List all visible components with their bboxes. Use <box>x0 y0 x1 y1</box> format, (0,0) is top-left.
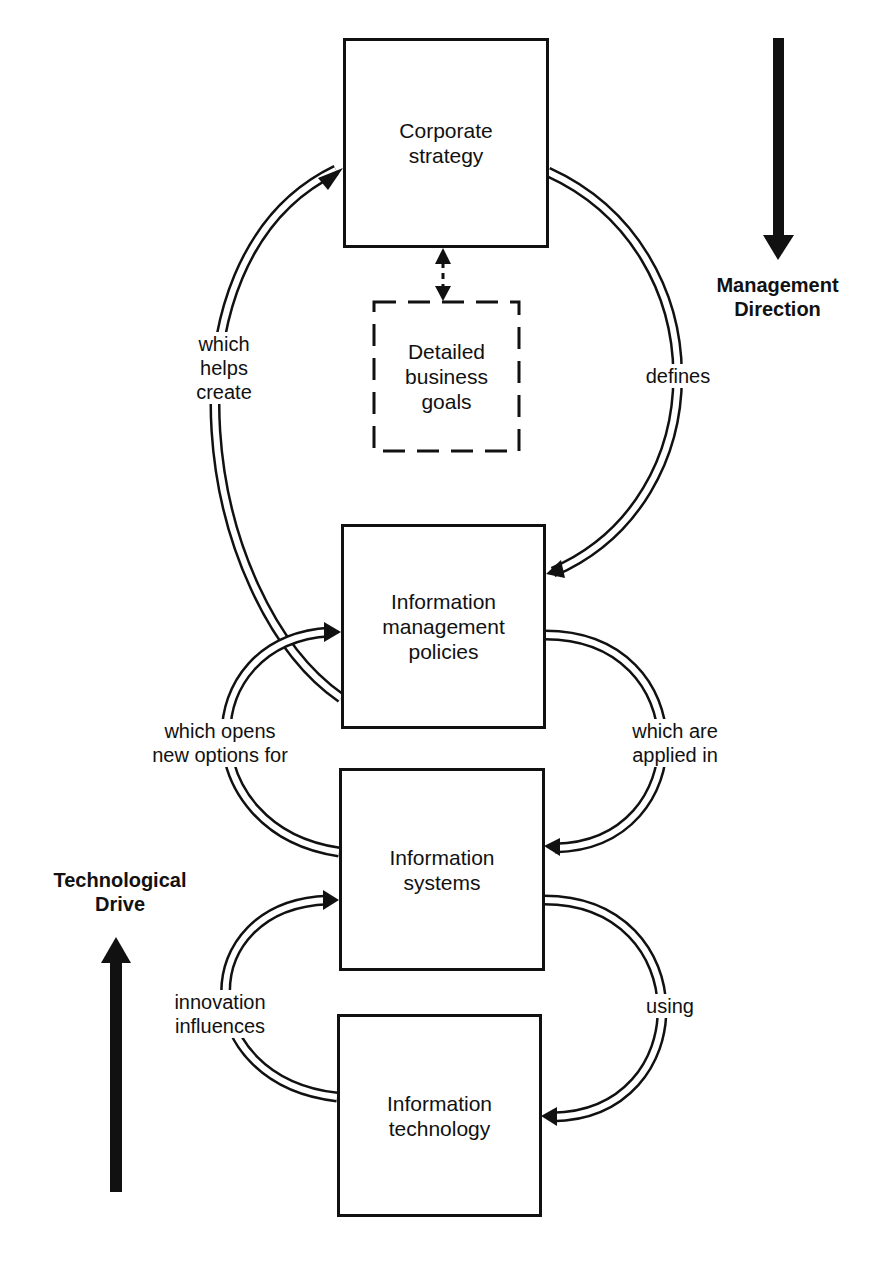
node-label: Detailed business goals <box>405 339 488 414</box>
edge-label-defines: defines <box>628 364 728 388</box>
dashed-bidirectional-arrow <box>435 248 451 301</box>
node-label: Information management policies <box>382 589 505 664</box>
arc-which-helps-create <box>215 168 343 698</box>
node-information-systems: Information systems <box>339 768 545 971</box>
node-label: Information technology <box>387 1091 492 1141</box>
technological-drive-label: Technological Drive <box>30 868 210 916</box>
node-detailed-business-goals: Detailed business goals <box>376 304 517 449</box>
management-direction-arrow-icon <box>763 38 794 260</box>
arrowhead-icon <box>544 838 560 856</box>
node-corporate-strategy: Corporate strategy <box>343 38 549 248</box>
edge-label-innovation-influences: innovation influences <box>160 990 280 1038</box>
node-label: Corporate strategy <box>399 118 492 168</box>
management-direction-label: Management Direction <box>690 273 865 321</box>
technological-drive-arrow-icon <box>101 937 131 1192</box>
arrowhead-icon <box>324 622 341 642</box>
edge-label-which-helps-create: which helps create <box>184 332 264 404</box>
node-information-management-policies: Information management policies <box>341 524 546 729</box>
edge-label-using: using <box>635 994 705 1018</box>
arrowhead-icon <box>541 1107 557 1126</box>
node-label: Information systems <box>389 845 494 895</box>
edge-label-which-opens-new-options-for: which opens new options for <box>140 719 300 767</box>
arrowhead-icon <box>323 890 339 910</box>
node-information-technology: Information technology <box>337 1014 542 1217</box>
edge-label-which-are-applied-in: which are applied in <box>615 719 735 767</box>
